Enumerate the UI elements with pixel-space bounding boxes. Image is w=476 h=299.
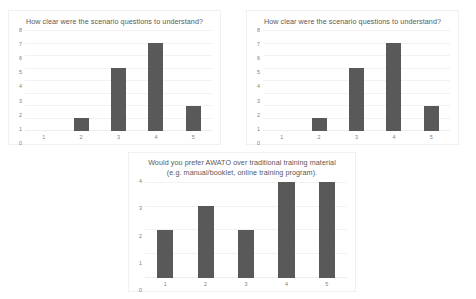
y-axis: 876543210	[251, 30, 263, 144]
x-axis: 12345	[25, 131, 212, 144]
bar-slot	[266, 182, 306, 278]
bar-slot	[300, 30, 337, 131]
bar	[319, 182, 335, 278]
bar-series	[145, 182, 347, 278]
bar-slot	[263, 30, 300, 131]
chart-title: How clear were the scenario questions to…	[247, 11, 458, 30]
bar	[386, 43, 401, 131]
x-axis-tick-label: 2	[300, 135, 337, 140]
x-axis-tick-label: 4	[266, 282, 306, 287]
plot-wrapper: 876543210 12345	[9, 30, 220, 144]
bar-slot	[62, 30, 99, 131]
bar	[424, 106, 439, 131]
bar-slot	[307, 182, 347, 278]
bar	[186, 106, 201, 131]
bar-series	[25, 30, 212, 131]
x-axis-tick-label: 5	[175, 135, 212, 140]
bar-chart-panel-2: How clear were the scenario questions to…	[246, 10, 459, 145]
bar-slot	[145, 182, 185, 278]
bar	[111, 68, 126, 131]
bar-chart-panel-1: How clear were the scenario questions to…	[8, 10, 221, 145]
y-axis: 43210	[133, 182, 145, 291]
x-axis-tick-label: 3	[226, 282, 266, 287]
bar-slot	[185, 182, 225, 278]
x-axis: 12345	[263, 131, 450, 144]
x-axis-tick-label: 1	[145, 282, 185, 287]
bar-slot	[137, 30, 174, 131]
plot-wrapper: 876543210 12345	[247, 30, 458, 144]
bar	[312, 118, 327, 131]
bar	[74, 118, 89, 131]
x-axis-tick-label: 1	[25, 135, 62, 140]
x-axis-tick-label: 4	[375, 135, 412, 140]
chart-title: Would you prefer AWATO over traditional …	[129, 153, 355, 182]
bar	[148, 43, 163, 131]
x-axis-tick-label: 4	[137, 135, 174, 140]
y-axis: 876543210	[13, 30, 25, 144]
x-axis-tick-label: 3	[338, 135, 375, 140]
bar	[278, 182, 294, 278]
plot-column: 12345	[145, 182, 347, 291]
x-axis-tick-label: 2	[185, 282, 225, 287]
bar	[198, 206, 214, 278]
plot-area	[145, 182, 347, 278]
x-axis-tick-label: 5	[307, 282, 347, 287]
bar	[349, 68, 364, 131]
bar	[157, 230, 173, 278]
x-axis-tick-label: 3	[100, 135, 137, 140]
chart-title: How clear were the scenario questions to…	[9, 11, 220, 30]
bar-series	[263, 30, 450, 131]
bar-slot	[175, 30, 212, 131]
bar	[238, 230, 254, 278]
plot-column: 12345	[263, 30, 450, 144]
bar-slot	[375, 30, 412, 131]
x-axis: 12345	[145, 278, 347, 291]
x-axis-tick-label: 5	[413, 135, 450, 140]
bar-slot	[413, 30, 450, 131]
plot-area	[263, 30, 450, 131]
bar-slot	[100, 30, 137, 131]
bar-chart-panel-3: Would you prefer AWATO over traditional …	[128, 152, 356, 292]
bar-slot	[25, 30, 62, 131]
bar-slot	[226, 182, 266, 278]
plot-wrapper: 43210 12345	[129, 182, 355, 291]
x-axis-tick-label: 1	[263, 135, 300, 140]
bar-slot	[338, 30, 375, 131]
plot-area	[25, 30, 212, 131]
plot-column: 12345	[25, 30, 212, 144]
x-axis-tick-label: 2	[62, 135, 99, 140]
